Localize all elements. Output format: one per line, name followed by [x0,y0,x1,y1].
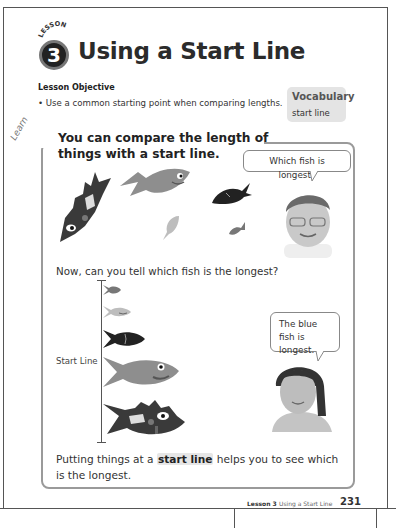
page-title: Using a Start Line [78,38,305,64]
small-light-fish-icon [161,214,181,240]
page-edge-divider [0,508,396,509]
footer-lesson: Lesson 3 [247,500,277,507]
girl-photo [264,356,338,432]
objective-heading: Lesson Objective [38,83,115,92]
start-line-tick [97,442,106,443]
blue-fish-icon [120,166,192,204]
start-line-label: Start Line [56,356,98,366]
shark-fish-icon [103,398,185,438]
page-edge-divider [376,509,377,528]
blue-fish-icon [103,357,179,387]
lesson-number-badge: 3 [39,40,69,70]
page-edge-divider [234,509,235,528]
conclusion-text: Putting things at a start line helps you… [56,451,346,483]
boy-photo [268,186,348,258]
speech-bubble-tail [310,171,320,183]
page-number: 231 [340,496,361,507]
objective-bullet: • Use a common starting point when compa… [38,98,283,108]
question-text: Now, can you tell which fish is the long… [56,265,278,277]
small-light-fish-icon [103,306,131,318]
shark-fish-icon [55,168,115,246]
black-fish-icon [103,330,145,348]
vocabulary-box: Vocabulary start line [287,87,346,122]
conclusion-text-start: Putting things at a [56,453,157,465]
footer-title: Using a Start Line [279,500,332,507]
tiny-fish-icon [103,285,121,295]
tiny-fish-icon [229,220,247,236]
black-fish-icon [210,181,252,205]
speech-bubble-boy: Which fish is longest? [243,150,351,172]
speech-bubble-girl: The blue fish is longest. [270,312,340,352]
highlighted-term: start line [157,453,213,465]
start-line [101,280,102,442]
start-line-tick [97,280,106,281]
vocabulary-term: start line [292,108,330,118]
vocabulary-heading: Vocabulary [292,91,355,102]
